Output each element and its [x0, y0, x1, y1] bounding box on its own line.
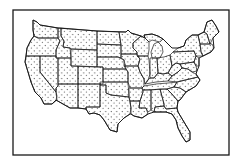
state-washington: [33, 20, 58, 38]
state-montana: [61, 28, 97, 50]
state-arizona: [56, 84, 78, 108]
state-new-mexico: [78, 84, 100, 109]
states-layer: [25, 20, 219, 142]
state-colorado: [78, 66, 103, 84]
state-florida: [154, 106, 190, 142]
state-kansas: [103, 69, 128, 82]
us-map-figure: [0, 0, 237, 166]
state-wyoming: [71, 49, 97, 67]
state-north-dakota: [97, 31, 121, 45]
state-south-dakota: [97, 44, 121, 58]
state-oregon: [26, 36, 60, 56]
